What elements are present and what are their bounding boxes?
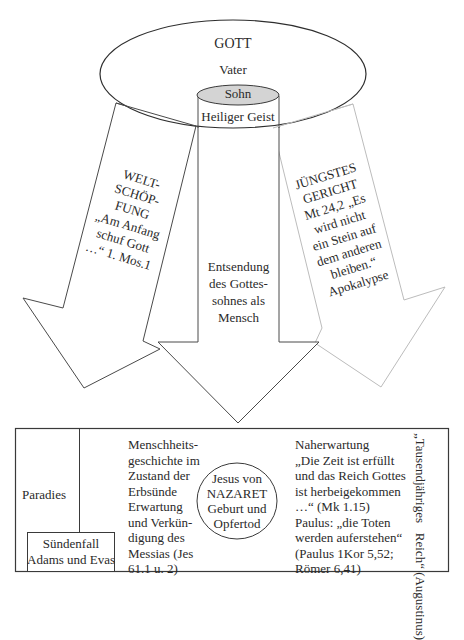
augustinus-line: (Augustinus) (413, 572, 428, 640)
naherwartung-line: und das Reich Gottes (295, 468, 406, 484)
suendenfall-line: Sündenfall (27, 536, 115, 552)
naherwartung-line: …“ (Mk 1.15) (295, 499, 406, 515)
tausendjaehriges-reich-text: „Tausendjähriges Reich“ (Augustinus) (413, 433, 427, 568)
entsendung-line: Entsendung (198, 258, 279, 275)
menschheit-line: 61.1 u. 2) (128, 561, 200, 577)
naherwartung-line: Paulus: „die Toten (295, 515, 406, 531)
naherwartung-line: ist herbeigekommen (295, 484, 406, 500)
suendenfall-line: Adams und Evas (27, 552, 115, 568)
jesus-line: Jesus von (197, 471, 277, 486)
reich-line: „Tausendjähriges Reich“ (413, 433, 428, 569)
jesus-line: Opfertod (197, 516, 277, 531)
god-title: GOTT (183, 36, 283, 52)
center-arrow-text: Entsendung des Gottes- sohnes als Mensch (198, 258, 279, 326)
menschheit-line: und Verkün- (128, 515, 200, 531)
jesus-line: NAZARET (197, 486, 277, 501)
jesus-line: Geburt und (197, 501, 277, 516)
menschheit-line: Menschheits- (128, 437, 200, 453)
menschheitsgeschichte-text: Menschheits- geschichte im Zustand der E… (128, 437, 200, 577)
menschheit-line: Messias (Jes (128, 546, 200, 562)
menschheit-line: Erbsünde (128, 484, 200, 500)
entsendung-line: Mensch (198, 309, 279, 326)
god-geist: Heiliger Geist (183, 109, 293, 125)
naherwartung-line: „Die Zeit ist erfüllt (295, 453, 406, 469)
paradies-label: Paradies (22, 487, 66, 503)
suendenfall-label: Sündenfall Adams und Evas (27, 536, 115, 568)
naherwartung-line: Naherwartung (295, 437, 406, 453)
god-vater: Vater (183, 62, 283, 78)
naherwartung-line: Römer 6,41) (295, 561, 406, 577)
entsendung-line: des Gottes- (198, 275, 279, 292)
naherwartung-line: werden auferstehen“ (295, 530, 406, 546)
menschheit-line: digung des (128, 530, 200, 546)
naherwartung-line: (Paulus 1Kor 5,52; (295, 546, 406, 562)
menschheit-line: geschichte im (128, 453, 200, 469)
entsendung-line: sohnes als (198, 292, 279, 309)
menschheit-line: Zustand der (128, 468, 200, 484)
naherwartung-text: Naherwartung „Die Zeit ist erfüllt und d… (295, 437, 406, 577)
jesus-text: Jesus von NAZARET Geburt und Opfertod (197, 471, 277, 531)
god-sohn: Sohn (198, 86, 278, 102)
menschheit-line: Erwartung (128, 499, 200, 515)
